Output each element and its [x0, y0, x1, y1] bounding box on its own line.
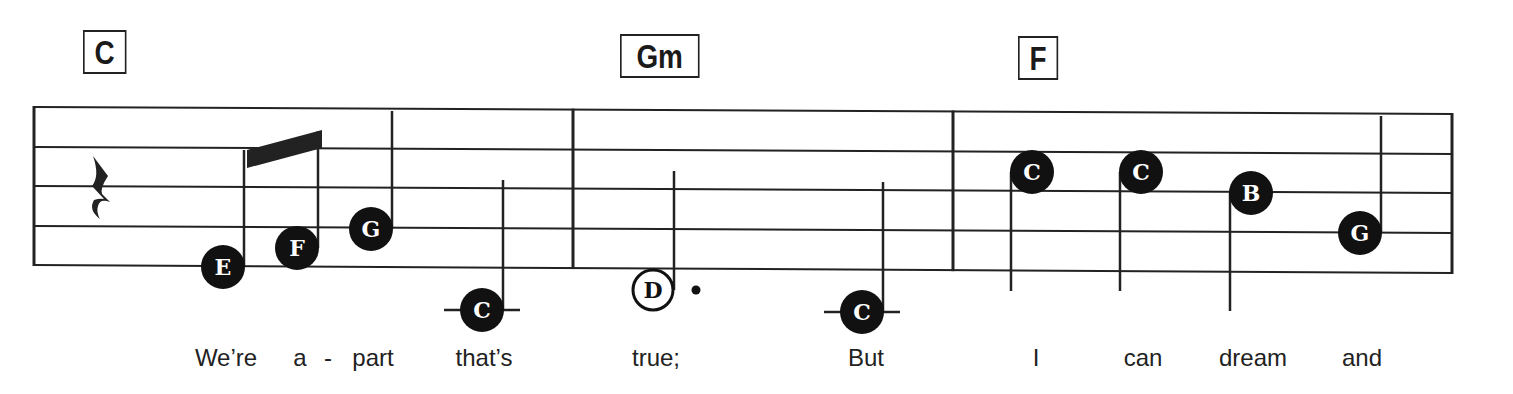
- staff-line: [34, 107, 1452, 114]
- music-staff: EFGCDCCCBG: [0, 0, 1513, 394]
- note-letter-f: F: [289, 235, 305, 261]
- note-letter-e: E: [215, 254, 232, 280]
- note-letter-g: G: [362, 216, 381, 242]
- note-letter-c: C: [853, 299, 871, 325]
- lyric-syllable: We’re: [195, 344, 257, 372]
- chord-symbol-gm: Gm: [620, 34, 699, 78]
- quarter-rest-icon: [92, 156, 110, 219]
- augmentation-dot: [692, 286, 701, 295]
- lyric-syllable: dream: [1219, 344, 1287, 372]
- lyric-syllable: -: [324, 344, 332, 372]
- note-letter-d: D: [643, 277, 662, 303]
- note-letter-c: C: [1023, 159, 1041, 185]
- lyric-syllable: and: [1342, 344, 1382, 372]
- staff-line: [34, 147, 1452, 154]
- chord-symbol-c: C: [83, 30, 126, 74]
- lyric-syllable: true;: [632, 344, 680, 372]
- lyric-syllable: a: [293, 344, 306, 372]
- note-letter-c: C: [1132, 159, 1150, 185]
- lyric-syllable: I: [1033, 344, 1040, 372]
- chord-symbol-f: F: [1018, 36, 1058, 80]
- lyric-syllable: But: [848, 344, 884, 372]
- note-letter-b: B: [1242, 180, 1261, 206]
- lyric-syllable: part: [352, 344, 393, 372]
- note-letter-g: G: [1351, 220, 1370, 246]
- note-letter-c: C: [473, 297, 491, 323]
- lyric-syllable: can: [1124, 344, 1163, 372]
- staff-line: [34, 265, 1452, 273]
- staff-line: [34, 226, 1452, 233]
- lyric-syllable: that’s: [456, 344, 513, 372]
- beam: [247, 130, 322, 168]
